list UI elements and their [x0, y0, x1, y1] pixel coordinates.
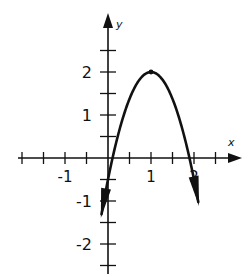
- y-axis-label: y: [115, 18, 123, 31]
- parabola-graph: xy-11221-1-2: [0, 0, 250, 277]
- y-axis-arrow-icon: [103, 13, 113, 28]
- vertex-point: [149, 70, 154, 75]
- y-tick-label: 1: [82, 106, 92, 125]
- x-tick-label: -1: [58, 168, 73, 186]
- parabola-curve: [102, 72, 199, 214]
- x-axis-arrow-icon: [228, 153, 242, 163]
- x-tick-label: 1: [146, 168, 156, 186]
- x-axis-label: x: [227, 136, 235, 149]
- right-curve-arrow-icon: [189, 176, 199, 206]
- left-curve-arrow-icon: [101, 188, 111, 218]
- y-tick-label: 2: [82, 63, 92, 82]
- y-tick-label: -2: [76, 235, 92, 254]
- y-tick-label: -1: [76, 192, 92, 211]
